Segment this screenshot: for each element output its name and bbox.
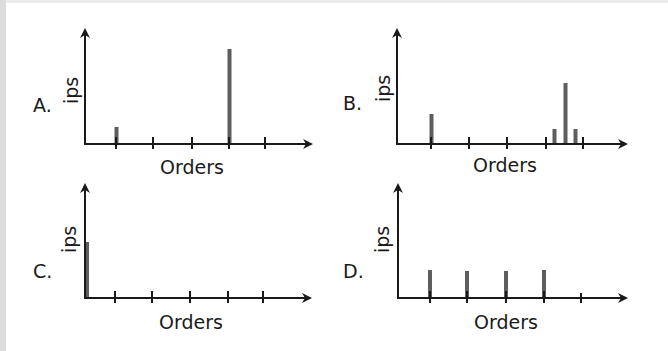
bar [228, 49, 232, 144]
panel-label-a: A. [33, 94, 52, 116]
x-axis-label-a: Orders [160, 156, 224, 178]
x-axis-label-d: Orders [474, 311, 538, 333]
bar [553, 129, 557, 144]
panel-b: B. ips Orders [343, 30, 626, 176]
x-axis-label-c: Orders [159, 311, 223, 333]
x-axis-label-b: Orders [473, 154, 537, 176]
panel-d: D. ips Orders [343, 185, 626, 333]
y-axis-label-c: ips [58, 226, 80, 253]
bars-d [428, 270, 546, 298]
panel-label-b: B. [343, 92, 362, 114]
panel-a: A. ips Orders [33, 30, 311, 178]
bar [574, 129, 578, 144]
figure-canvas: A. ips Orders B. ips [0, 0, 668, 351]
bars-b [430, 83, 578, 144]
panel-label-c: C. [33, 260, 52, 282]
panel-label-d: D. [343, 260, 364, 282]
y-axis-label-a: ips [60, 77, 82, 104]
y-axis-label-b: ips [372, 75, 394, 102]
panel-c: C. ips Orders [33, 185, 310, 333]
y-axis-label-d: ips [371, 226, 393, 253]
bar [564, 83, 568, 144]
bars-a [115, 49, 232, 144]
